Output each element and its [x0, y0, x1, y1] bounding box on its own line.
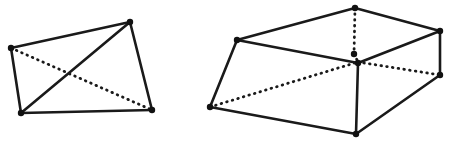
vertex-upper-right [437, 28, 443, 34]
figure-canvas [0, 0, 459, 143]
vertex-upper-left [234, 37, 240, 43]
vertex-center-junction [355, 60, 361, 66]
vertex-lower-left [207, 104, 213, 110]
vertex-center-hidden-node [351, 51, 357, 57]
vertex-bottom-left [18, 110, 24, 116]
vertex-lower-right [437, 72, 443, 78]
vertex-bottom-front [353, 131, 359, 137]
vertex-top-right [127, 19, 133, 25]
vertex-top-left [8, 45, 14, 51]
vertex-bottom-right [149, 107, 155, 113]
vertex-top-apex [352, 5, 358, 11]
diagram-svg [0, 0, 459, 143]
